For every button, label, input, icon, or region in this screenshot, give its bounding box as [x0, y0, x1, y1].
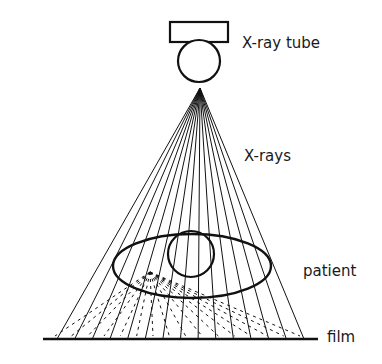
scatter-ray	[150, 272, 218, 336]
scatter-ray	[150, 272, 300, 336]
tube-anode	[178, 40, 220, 82]
xray-beams	[57, 88, 304, 339]
tube-label: X-ray tube	[242, 34, 320, 52]
film-label: film	[327, 328, 355, 346]
xray-beam	[128, 88, 200, 339]
patient-body	[113, 234, 271, 298]
xray-beam	[110, 88, 200, 339]
xray-beam	[198, 88, 200, 339]
xray-beam	[200, 88, 304, 339]
xray-diagram	[0, 0, 382, 364]
scatter-ray	[150, 272, 284, 336]
xray-beam	[200, 88, 269, 339]
rays-label: X-rays	[244, 147, 291, 165]
scatter-ray	[150, 272, 186, 336]
scatter-ray	[88, 272, 150, 336]
scatter-ray	[150, 272, 235, 336]
patient-organ	[168, 231, 214, 277]
scatter-ray	[55, 272, 150, 336]
xray-beam	[145, 88, 200, 339]
scatter-ray	[150, 272, 202, 336]
xray-beam	[200, 88, 233, 339]
patient-label: patient	[303, 262, 356, 280]
scatter-ray	[71, 272, 150, 336]
